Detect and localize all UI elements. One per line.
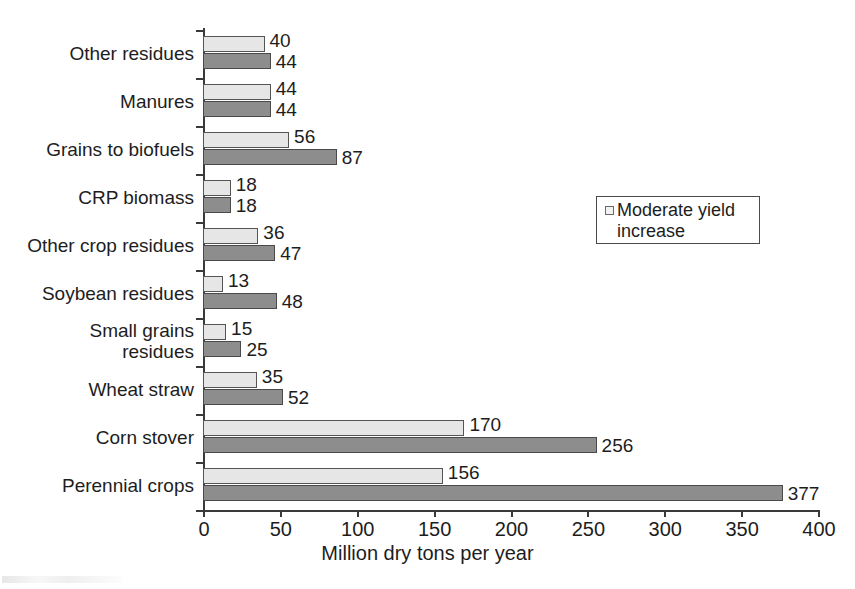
bar-light bbox=[203, 36, 265, 52]
bar-dark bbox=[203, 293, 277, 309]
x-axis-tick bbox=[587, 510, 589, 517]
category-label: Manures bbox=[0, 91, 194, 112]
category-label: Perennial crops bbox=[0, 475, 194, 496]
bar-group: 1348 bbox=[203, 270, 818, 318]
bar-value-label: 44 bbox=[276, 100, 297, 119]
bar-value-label: 18 bbox=[236, 196, 257, 215]
y-axis-tick bbox=[196, 366, 203, 368]
bar-light bbox=[203, 468, 443, 484]
category-label: Other residues bbox=[0, 43, 194, 64]
category-label: Wheat straw bbox=[0, 379, 194, 400]
bar-chart: 4044444456871818364713481525355217025615… bbox=[0, 0, 855, 589]
bar-light bbox=[203, 324, 226, 340]
legend-label: Moderate yield increase bbox=[617, 200, 757, 242]
scan-artifact bbox=[2, 576, 122, 583]
bar-value-label: 13 bbox=[228, 271, 249, 290]
bar-light bbox=[203, 372, 257, 388]
y-axis-tick bbox=[196, 462, 203, 464]
bar-value-label: 87 bbox=[342, 148, 363, 167]
category-label: Small grains residues bbox=[0, 320, 194, 362]
bar-group: 1525 bbox=[203, 318, 818, 366]
x-axis-line bbox=[203, 510, 819, 512]
x-axis-tick bbox=[664, 510, 666, 517]
y-axis-tick bbox=[196, 270, 203, 272]
bar-dark bbox=[203, 245, 275, 261]
bar-light bbox=[203, 180, 231, 196]
bar-light bbox=[203, 228, 258, 244]
bar-group: 156377 bbox=[203, 462, 818, 510]
bar-value-label: 15 bbox=[231, 319, 252, 338]
bar-value-label: 36 bbox=[263, 223, 284, 242]
bar-value-label: 48 bbox=[282, 292, 303, 311]
bar-light bbox=[203, 276, 223, 292]
x-tick-label: 200 bbox=[495, 518, 528, 540]
x-axis-title: Million dry tons per year bbox=[0, 541, 855, 565]
x-axis-tick bbox=[511, 510, 513, 517]
y-axis-tick bbox=[196, 174, 203, 176]
bar-group: 4044 bbox=[203, 30, 818, 78]
bar-dark bbox=[203, 149, 337, 165]
legend-swatch-icon bbox=[605, 206, 614, 215]
bar-group: 3552 bbox=[203, 366, 818, 414]
bar-value-label: 156 bbox=[448, 463, 480, 482]
x-axis-tick bbox=[357, 510, 359, 517]
bar-group: 4444 bbox=[203, 78, 818, 126]
bar-value-label: 35 bbox=[262, 367, 283, 386]
bar-light bbox=[203, 420, 464, 436]
x-tick-label: 350 bbox=[725, 518, 758, 540]
x-axis-tick bbox=[203, 510, 205, 517]
bar-light bbox=[203, 84, 271, 100]
x-axis-tick bbox=[741, 510, 743, 517]
y-axis-tick bbox=[196, 126, 203, 128]
bar-dark bbox=[203, 197, 231, 213]
category-label: Soybean residues bbox=[0, 283, 194, 304]
bar-group: 5687 bbox=[203, 126, 818, 174]
bar-dark bbox=[203, 53, 271, 69]
category-label: Other crop residues bbox=[0, 235, 194, 256]
x-tick-label: 100 bbox=[341, 518, 374, 540]
category-label: Grains to biofuels bbox=[0, 139, 194, 160]
x-axis-tick bbox=[434, 510, 436, 517]
plot-area: 4044444456871818364713481525355217025615… bbox=[203, 30, 818, 510]
bar-dark bbox=[203, 437, 597, 453]
bar-group: 170256 bbox=[203, 414, 818, 462]
x-axis-tick bbox=[280, 510, 282, 517]
bar-dark bbox=[203, 341, 241, 357]
bar-value-label: 56 bbox=[294, 127, 315, 146]
x-tick-label: 250 bbox=[572, 518, 605, 540]
y-axis-tick bbox=[196, 510, 203, 512]
bar-dark bbox=[203, 485, 783, 501]
y-axis-tick bbox=[196, 318, 203, 320]
bar-value-label: 44 bbox=[276, 79, 297, 98]
y-axis-tick bbox=[196, 222, 203, 224]
bar-value-label: 256 bbox=[602, 436, 634, 455]
x-axis-tick bbox=[818, 510, 820, 517]
bar-light bbox=[203, 132, 289, 148]
bar-value-label: 377 bbox=[788, 484, 820, 503]
bar-value-label: 44 bbox=[276, 52, 297, 71]
bar-value-label: 52 bbox=[288, 388, 309, 407]
bar-value-label: 47 bbox=[280, 244, 301, 263]
x-tick-label: 300 bbox=[649, 518, 682, 540]
bar-value-label: 170 bbox=[469, 415, 501, 434]
y-axis-tick bbox=[196, 30, 203, 32]
legend: Moderate yield increase bbox=[596, 196, 760, 244]
bar-dark bbox=[203, 101, 271, 117]
category-label: Corn stover bbox=[0, 427, 194, 448]
bar-value-label: 40 bbox=[270, 31, 291, 50]
x-tick-label: 50 bbox=[270, 518, 292, 540]
bar-dark bbox=[203, 389, 283, 405]
x-tick-label: 150 bbox=[418, 518, 451, 540]
category-label: CRP biomass bbox=[0, 187, 194, 208]
x-tick-label: 400 bbox=[802, 518, 835, 540]
bar-value-label: 25 bbox=[246, 340, 267, 359]
x-tick-label: 0 bbox=[198, 518, 209, 540]
y-axis-tick bbox=[196, 414, 203, 416]
y-axis-tick bbox=[196, 78, 203, 80]
bar-value-label: 18 bbox=[236, 175, 257, 194]
